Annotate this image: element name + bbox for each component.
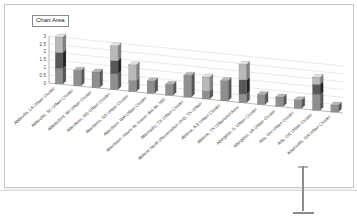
- x-tick-label: Ada, OH Urban Cluster: [258, 110, 295, 144]
- bar-segment-side: [247, 61, 250, 80]
- bar-segment-front: [184, 75, 192, 97]
- bar-segment-side: [100, 69, 103, 88]
- chart-bar-column: [74, 67, 85, 86]
- bar-segment-front: [331, 105, 339, 112]
- chart-bar-column: [312, 74, 323, 110]
- x-tick-label: Adairsville, GA Urban Cluster: [286, 114, 332, 156]
- bar-segment-front: [239, 94, 247, 103]
- bar-segment-front: [129, 80, 137, 91]
- chart-bar-column: [92, 69, 103, 88]
- chart-bar-column: [294, 97, 305, 109]
- x-tick-label: Abilene, KS Urban Cluster: [180, 102, 222, 140]
- chart-bar-column: [147, 78, 158, 94]
- bar-segment-front: [312, 84, 320, 94]
- bar-segment-front: [110, 74, 118, 90]
- chart-area-tooltip-label: Chart Area: [36, 17, 65, 23]
- bar-segment-side: [136, 62, 139, 81]
- y-tick-label: 1: [43, 65, 46, 70]
- bar-segment-front: [55, 68, 63, 84]
- bar-segment-front: [129, 65, 137, 81]
- bar-segment-front: [55, 37, 63, 53]
- chart-bar-column: [331, 102, 342, 112]
- bar-segment-side: [63, 65, 66, 84]
- chart-bar-column: [55, 34, 66, 84]
- i-beam-foot: [293, 212, 314, 214]
- bar-segment-front: [257, 94, 265, 104]
- bar-segment-front: [110, 61, 118, 74]
- bar-segment-side: [81, 67, 84, 86]
- bar-segment-front: [276, 97, 284, 106]
- chart-svg: 00.511.522.53Abbeville, LA Urban Cluster…: [5, 5, 353, 187]
- chart-plot-surface[interactable]: 00.511.522.53Abbeville, LA Urban Cluster…: [5, 5, 353, 187]
- bar-segment-side: [118, 71, 121, 90]
- bar-segment-front: [55, 53, 63, 69]
- chart-bar-column: [165, 81, 176, 95]
- bar-segment-side: [63, 50, 66, 69]
- chart-area-tooltip: Chart Area: [32, 15, 69, 27]
- bar-segment-front: [239, 80, 247, 94]
- bar-segment-front: [312, 77, 320, 84]
- bar-segment-front: [202, 91, 210, 99]
- gridline: [49, 44, 343, 74]
- y-tick-label: 0.5: [40, 73, 47, 78]
- i-beam-cursor: [290, 166, 316, 214]
- y-tick-label: 2: [43, 49, 46, 54]
- bar-segment-side: [320, 92, 323, 111]
- chart-bar-column: [184, 72, 195, 97]
- bar-segment-front: [221, 80, 229, 100]
- bar-segment-front: [165, 84, 173, 95]
- chart-bar-column: [276, 94, 287, 106]
- bar-segment-front: [294, 100, 302, 109]
- y-tick-label: 3: [43, 34, 46, 39]
- screenshot-root: 00.511.522.53Abbeville, LA Urban Cluster…: [0, 0, 357, 216]
- chart-bar-column: [202, 74, 213, 99]
- chart-bar-column: [257, 91, 268, 104]
- bar-segment-front: [147, 81, 155, 94]
- y-tick-label: 2.5: [40, 42, 47, 47]
- chart-bar-column: [239, 61, 250, 102]
- bar-segment-front: [202, 77, 210, 91]
- bar-segment-side: [63, 34, 66, 53]
- i-beam-stem: [302, 166, 304, 211]
- bar-segment-side: [228, 77, 231, 100]
- chart-bar-column: [221, 77, 232, 100]
- x-tick-label: Ada, OK Urban Cluster: [276, 112, 313, 146]
- bar-segment-front: [312, 95, 320, 111]
- bar-segment-side: [192, 72, 195, 97]
- chart-object[interactable]: 00.511.522.53Abbeville, LA Urban Cluster…: [4, 4, 354, 188]
- chart-axes: 00.511.522.53: [40, 34, 49, 86]
- chart-bar-column: [110, 43, 121, 90]
- bar-segment-front: [92, 72, 100, 88]
- bar-segment-front: [239, 64, 247, 80]
- bar-segment-front: [74, 70, 82, 86]
- y-tick-label: 1.5: [40, 57, 47, 62]
- bar-segment-front: [110, 46, 118, 61]
- chart-bar-column: [129, 62, 140, 92]
- y-tick-label: 0: [43, 81, 46, 86]
- gridline: [49, 36, 343, 66]
